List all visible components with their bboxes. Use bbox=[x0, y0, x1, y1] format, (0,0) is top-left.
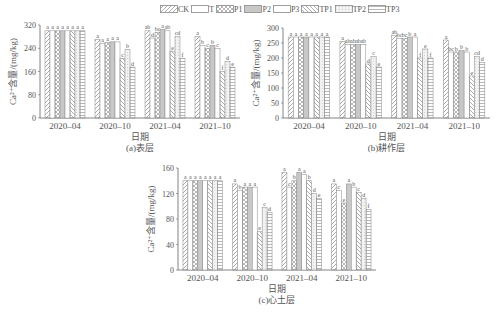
bar-ck-2021-10 bbox=[195, 37, 200, 118]
bar-p1-2021-10 bbox=[341, 203, 346, 270]
significance-letter: e bbox=[424, 43, 427, 49]
bar-p2-2020-10 bbox=[110, 42, 115, 118]
bar-tp3-2021-10 bbox=[480, 63, 485, 119]
significance-letter: c bbox=[216, 42, 219, 48]
significance-letter: a bbox=[106, 36, 109, 42]
x-axis-label: 日期 bbox=[378, 132, 396, 142]
y-tick-label: 100 bbox=[267, 84, 279, 93]
bar-p3-2021-10 bbox=[464, 52, 469, 118]
bar-p2-2021-04 bbox=[407, 37, 412, 118]
significance-letter: a bbox=[253, 181, 256, 187]
significance-letter: a bbox=[51, 24, 54, 30]
chart-panel-1: 050100150200250300Ca²⁺含量/(mg/kg)aaaaaaaa… bbox=[250, 24, 490, 153]
significance-letter: cd bbox=[175, 30, 181, 36]
bar-tp1-2021-04 bbox=[418, 58, 423, 118]
bar-p3-2021-10 bbox=[351, 187, 356, 270]
bar-p3-2020-04 bbox=[203, 181, 208, 270]
significance-letter: a bbox=[111, 35, 114, 41]
bar-ck-2020-10 bbox=[95, 40, 100, 118]
bar-tp1-2021-10 bbox=[220, 72, 225, 119]
significance-letter: a bbox=[234, 177, 237, 183]
significance-letter: cd bbox=[474, 50, 480, 56]
bar-p2-2021-04 bbox=[160, 29, 165, 118]
significance-letter: a bbox=[298, 166, 301, 172]
bar-ck-2021-04 bbox=[282, 172, 287, 270]
significance-letter: a bbox=[315, 31, 318, 37]
x-tick-label: 2020–04 bbox=[293, 121, 325, 131]
y-axis-label: Ca²⁺含量/(mg/kg) bbox=[145, 186, 156, 253]
bar-ck-2021-04 bbox=[392, 36, 397, 119]
bar-p3-2020-10 bbox=[361, 45, 366, 119]
significance-letter: a bbox=[445, 34, 448, 40]
significance-letter: b bbox=[455, 46, 458, 52]
bar-p2-2020-04 bbox=[198, 181, 203, 270]
significance-letter: b bbox=[460, 44, 463, 50]
bar-p2-2020-10 bbox=[355, 45, 360, 119]
significance-letter: a bbox=[326, 31, 329, 37]
significance-letter: e bbox=[342, 197, 345, 203]
bar-t-2020-04 bbox=[50, 31, 55, 118]
x-tick-label: 2020–04 bbox=[49, 121, 81, 131]
significance-letter: ab bbox=[145, 24, 151, 30]
significance-letter: a bbox=[61, 24, 64, 30]
bar-ck-2020-10 bbox=[232, 184, 237, 270]
significance-letter: b bbox=[201, 39, 204, 45]
y-tick-label: 50 bbox=[271, 99, 279, 108]
bar-tp2-2020-10 bbox=[371, 57, 376, 119]
significance-letter: a bbox=[204, 174, 207, 180]
significance-letter: a bbox=[303, 168, 306, 174]
significance-letter: a bbox=[194, 174, 197, 180]
bar-p3-2020-10 bbox=[252, 187, 257, 270]
x-tick-label: 2020–10 bbox=[99, 121, 131, 131]
bar-t-2021-04 bbox=[287, 187, 292, 270]
significance-letter: a bbox=[295, 31, 298, 37]
bar-p1-2021-04 bbox=[402, 39, 407, 119]
significance-letter: a bbox=[219, 174, 222, 180]
significance-letter: a bbox=[76, 24, 79, 30]
bar-tp1-2020-04 bbox=[314, 37, 319, 118]
x-axis-label: 日期 bbox=[131, 132, 149, 142]
bar-p3-2020-04 bbox=[65, 31, 70, 118]
significance-letter: b bbox=[352, 181, 355, 187]
bar-ck-2021-04 bbox=[145, 31, 150, 118]
bar-tp1-2020-04 bbox=[70, 31, 75, 118]
panel-title: (a)表层 bbox=[126, 142, 154, 153]
bar-tp2-2020-10 bbox=[125, 50, 130, 118]
bar-ck-2020-04 bbox=[183, 181, 188, 270]
y-tick-label: 160 bbox=[162, 164, 174, 173]
y-tick-label: 250 bbox=[267, 39, 279, 48]
bar-ck-2021-10 bbox=[443, 40, 448, 118]
bar-tp2-2021-10 bbox=[225, 61, 230, 118]
significance-letter: a bbox=[214, 174, 217, 180]
bar-tp1-2020-10 bbox=[120, 58, 125, 118]
bar-p1-2020-10 bbox=[105, 42, 110, 118]
significance-letter: e bbox=[258, 225, 261, 231]
significance-letter: a bbox=[209, 174, 212, 180]
x-tick-label: 2021–10 bbox=[336, 273, 368, 283]
bar-t-2021-10 bbox=[336, 190, 341, 270]
significance-letter: b bbox=[465, 46, 468, 52]
significance-letter: a bbox=[189, 174, 192, 180]
significance-letter: d bbox=[131, 61, 134, 67]
bar-t-2020-04 bbox=[188, 181, 193, 270]
bar-tp2-2020-04 bbox=[75, 31, 80, 118]
significance-letter: b bbox=[308, 174, 311, 180]
significance-letter: a bbox=[347, 177, 350, 183]
significance-letter: e bbox=[171, 45, 174, 51]
significance-letter: a bbox=[300, 31, 303, 37]
bar-tp1-2021-04 bbox=[170, 51, 175, 118]
significance-letter: ab bbox=[165, 24, 171, 30]
significance-letter: d bbox=[268, 206, 271, 212]
bar-p2-2021-10 bbox=[346, 184, 351, 270]
x-tick-label: 2020–10 bbox=[237, 273, 269, 283]
significance-letter: a bbox=[71, 24, 74, 30]
x-tick-label: 2020–10 bbox=[345, 121, 377, 131]
bar-p2-2021-10 bbox=[210, 45, 215, 118]
bar-t-2021-10 bbox=[200, 45, 205, 118]
bar-tp3-2020-10 bbox=[267, 213, 272, 270]
y-tick-label: 300 bbox=[267, 24, 279, 33]
y-tick-label: 320 bbox=[24, 21, 36, 30]
significance-letter: c bbox=[206, 42, 209, 48]
bar-tp1-2020-10 bbox=[366, 64, 371, 118]
significance-letter: f bbox=[222, 65, 224, 71]
